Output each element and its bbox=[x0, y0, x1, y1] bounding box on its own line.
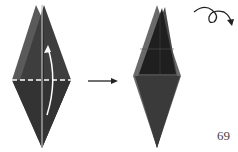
model-before-fold bbox=[12, 5, 72, 148]
right-arrow-icon bbox=[88, 78, 118, 84]
origami-diagram bbox=[0, 0, 238, 152]
turn-arrow-head-icon bbox=[227, 19, 234, 26]
turn-over-icon bbox=[194, 7, 231, 22]
model-after-fold bbox=[133, 5, 181, 148]
page-number: 69 bbox=[217, 128, 230, 144]
